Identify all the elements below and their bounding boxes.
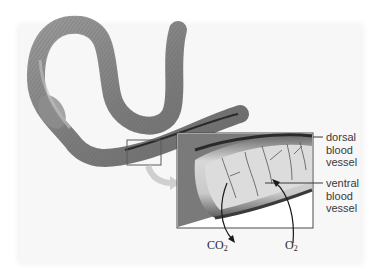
zoom-arrow <box>148 166 172 183</box>
o2-label: O2 <box>285 238 298 253</box>
o2-subscript: 2 <box>294 244 298 253</box>
co2-label: CO2 <box>207 238 228 253</box>
earthworm-illustration <box>0 0 378 273</box>
co2-base: CO <box>207 238 224 252</box>
label-line: blood <box>326 144 357 157</box>
label-line: vessel <box>326 202 359 215</box>
label-line: ventral <box>326 177 359 190</box>
ventral-blood-vessel-label: ventral blood vessel <box>326 177 359 215</box>
co2-subscript: 2 <box>224 244 228 253</box>
inset-cross-section <box>177 133 313 228</box>
label-line: blood <box>326 190 359 203</box>
label-line: vessel <box>326 156 357 169</box>
o2-base: O <box>285 238 294 252</box>
dorsal-blood-vessel-label: dorsal blood vessel <box>326 131 357 169</box>
label-line: dorsal <box>326 131 357 144</box>
